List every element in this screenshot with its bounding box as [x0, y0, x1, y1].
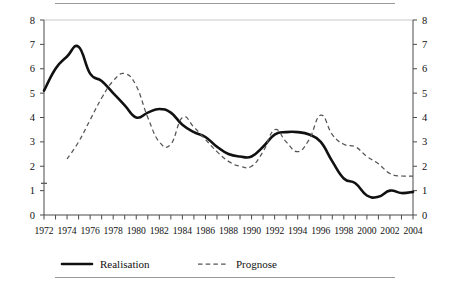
y-tick-label-left: 5 — [30, 88, 35, 99]
line-chart: 012345678 012345678 19721974197619781980… — [0, 0, 450, 290]
y-axis-labels-left: 012345678 — [30, 15, 36, 221]
x-tick-label: 1990 — [242, 225, 261, 236]
y-tick-label-left: 6 — [30, 63, 35, 74]
x-axis-labels: 1972197419761978198019821984198619881990… — [34, 225, 422, 236]
y-tick-label-left: 1 — [30, 185, 35, 196]
y-tick-label-right: 5 — [422, 88, 427, 99]
x-tick-label: 1982 — [150, 225, 169, 236]
y-tick-label-left: 4 — [30, 112, 36, 123]
y-tick-label-right: 4 — [422, 112, 428, 123]
x-tick-label: 1978 — [104, 225, 123, 236]
x-tick-label: 1984 — [173, 225, 192, 236]
y-tick-label-right: 2 — [422, 161, 427, 172]
x-tick-label: 1994 — [288, 225, 307, 236]
y-tick-label-left: 2 — [30, 161, 35, 172]
legend-label-realisation: Realisation — [100, 258, 150, 270]
y-tick-label-right: 0 — [422, 210, 427, 221]
chart-figure: 012345678 012345678 19721974197619781980… — [0, 0, 450, 290]
x-tick-label: 1972 — [34, 225, 53, 236]
y-tick-label-right: 1 — [422, 185, 427, 196]
x-tick-label: 1988 — [219, 225, 238, 236]
y-tick-label-left: 7 — [30, 39, 35, 50]
x-tick-label: 2000 — [357, 225, 376, 236]
y-tick-label-right: 6 — [422, 63, 427, 74]
y-tick-label-right: 3 — [422, 136, 427, 147]
x-tick-label: 2002 — [380, 225, 399, 236]
y-tick-label-left: 8 — [30, 15, 35, 26]
series-line-prognose — [67, 73, 413, 176]
y-tick-label-left: 0 — [30, 210, 35, 221]
y-axis-labels-right: 012345678 — [422, 15, 428, 221]
series-line-realisation — [44, 46, 413, 198]
y-tick-label-left: 3 — [30, 136, 35, 147]
x-tick-label: 2004 — [403, 225, 422, 236]
chart-legend: RealisationPrognose — [62, 258, 277, 270]
x-tick-label: 1974 — [57, 225, 76, 236]
x-tick-label: 1976 — [81, 225, 100, 236]
y-tick-label-right: 8 — [422, 15, 427, 26]
x-tick-label: 1992 — [265, 225, 284, 236]
y-tick-label-right: 7 — [422, 39, 427, 50]
x-tick-label: 1980 — [127, 225, 146, 236]
x-tick-label: 1998 — [334, 225, 353, 236]
x-tick-label: 1986 — [196, 225, 215, 236]
series-layer — [41, 46, 413, 198]
x-tick-label: 1996 — [311, 225, 330, 236]
legend-label-prognose: Prognose — [236, 258, 277, 270]
